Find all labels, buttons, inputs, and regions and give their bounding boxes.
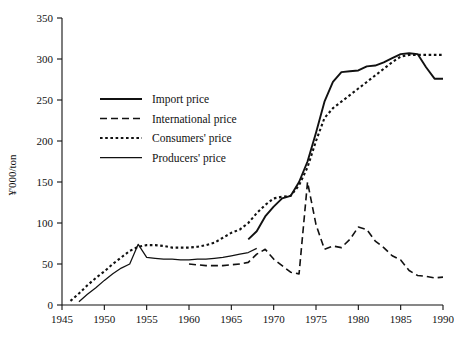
- x-tick-label: 1955: [136, 313, 159, 325]
- y-tick-label: 50: [42, 258, 54, 270]
- series-lines: [70, 53, 443, 301]
- x-tick-label: 1985: [390, 313, 413, 325]
- series-line: [189, 182, 443, 278]
- series-line: [248, 53, 443, 239]
- x-tick-label: 1970: [263, 313, 286, 325]
- series-line: [79, 244, 257, 301]
- x-tick-label: 1945: [51, 313, 74, 325]
- x-tick-label: 1965: [220, 313, 243, 325]
- x-axis-ticks: 1945195019551960196519701975198019851990: [51, 305, 454, 325]
- y-tick-label: 150: [37, 176, 54, 188]
- legend-label: Producers' price: [152, 152, 226, 165]
- y-tick-label: 300: [37, 53, 54, 65]
- legend-label: International price: [152, 113, 237, 126]
- y-tick-label: 250: [37, 94, 54, 106]
- series-line: [70, 55, 443, 301]
- y-tick-label: 200: [37, 135, 54, 147]
- legend-label: Consumers' price: [152, 132, 232, 145]
- chart-container: 050100150200250300350 194519501955196019…: [0, 0, 454, 344]
- legend-label: Import price: [152, 93, 209, 106]
- y-tick-label: 100: [37, 217, 54, 229]
- x-tick-label: 1950: [93, 313, 116, 325]
- line-chart: 050100150200250300350 194519501955196019…: [0, 0, 454, 344]
- y-axis-label: ¥'000/ton: [6, 154, 18, 196]
- x-tick-label: 1975: [305, 313, 328, 325]
- x-tick-label: 1960: [178, 313, 201, 325]
- legend: Import priceInternational priceConsumers…: [100, 93, 237, 165]
- y-axis-ticks: 050100150200250300350: [37, 12, 63, 311]
- x-tick-label: 1990: [432, 313, 454, 325]
- y-tick-label: 0: [48, 299, 54, 311]
- y-tick-label: 350: [37, 12, 54, 24]
- x-tick-label: 1980: [347, 313, 370, 325]
